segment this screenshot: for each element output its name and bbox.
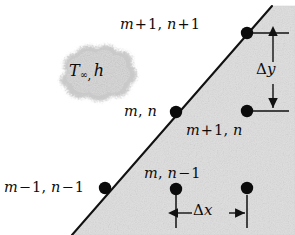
node-m1-n1: [241, 27, 253, 39]
node-label-m-n: m, n: [124, 104, 157, 119]
node-label-m-n-minus-1: m, n−1: [144, 166, 201, 181]
dimension-label-delta-y: Δy: [256, 62, 276, 77]
node-label-m-plus-1-n: m+1, n: [186, 123, 243, 138]
dimension-label-delta-x: Δx: [193, 203, 213, 218]
shaded-solid-region: [72, 6, 295, 235]
node-label-m-minus-1-n-minus-1: m−1, n−1: [4, 180, 84, 195]
node-m-nm1: [170, 183, 182, 195]
node-mp1-n: [241, 105, 253, 117]
node-m-n: [170, 106, 182, 118]
node-mp1-nm1: [241, 182, 253, 194]
nodal-network-diagram: m+1, n+1 m, n m+1, n m, n−1 m−1, n−1 Δy …: [0, 0, 295, 235]
node-mm1-nm1: [99, 182, 111, 194]
cloud-label-t-infinity-h: T∞,h: [69, 63, 104, 81]
node-label-m-plus-1-n-plus-1: m+1, n+1: [120, 17, 200, 32]
